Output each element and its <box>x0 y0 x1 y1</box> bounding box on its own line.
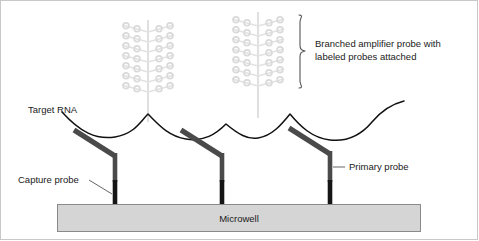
branched-amplifier-label-line2: labeled probes attached <box>315 51 416 62</box>
bdna-assay-diagram: Microwell Target RNA Capture probe Prima… <box>0 0 479 241</box>
target-rna-curve <box>62 101 404 140</box>
branched-amplifier-label-line1: Branched amplifier probe with <box>315 38 441 49</box>
probe-assembly-2 <box>181 130 222 205</box>
primary-probe-arm <box>181 130 222 156</box>
diagram-canvas: Microwell Target RNA Capture probe Prima… <box>0 0 479 241</box>
microwell-label: Microwell <box>219 213 259 224</box>
probe-assembly-1 <box>74 130 115 205</box>
branched-amplifier-bracket <box>299 15 305 88</box>
capture-probe-leader-line <box>89 180 112 194</box>
capture-probe-label: Capture probe <box>18 174 79 185</box>
primary-probe-label: Primary probe <box>349 161 409 172</box>
target-rna-label: Target RNA <box>28 104 78 115</box>
branched-amplifier-probe-1 <box>122 20 174 122</box>
branched-amplifier-probe-2 <box>232 12 284 118</box>
primary-probe-arm <box>74 130 115 156</box>
